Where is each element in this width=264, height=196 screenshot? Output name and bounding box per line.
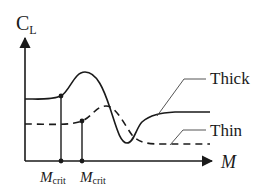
thick-label: Thick [210,69,250,88]
mcrit-label-thin: Mcrit [79,169,106,186]
chart-canvas: CL M Mcrit Mcrit Thick Thin [0,0,264,196]
mcrit-thick-point [59,94,64,99]
x-axis-label: M [220,152,237,172]
mcrit-label-thick: Mcrit [39,169,66,186]
y-axis-label-sub: L [29,23,36,37]
y-axis-label-main: C [16,12,29,34]
mcrit-thin-point [80,119,85,124]
thick-curve [25,72,210,143]
y-axis-label: CL [16,12,37,37]
thin-leader-line [170,130,206,145]
thin-label: Thin [210,121,243,140]
mcrit-thin-axis-point [80,159,85,164]
thick-leader-line [157,79,206,116]
mcrit-thick-axis-point [59,159,64,164]
